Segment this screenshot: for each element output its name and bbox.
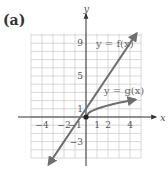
- y-tick-label: 5: [77, 71, 83, 81]
- curve-labels: y = f(x)y = g(x): [95, 38, 144, 97]
- y-axis-label: y: [83, 3, 90, 14]
- y-tick-label: 9: [77, 38, 83, 48]
- x-axis-label: x: [160, 112, 166, 123]
- g-start-point: [83, 114, 88, 119]
- x-tick-label: 4: [127, 120, 133, 130]
- y-tick-label: 1: [77, 104, 83, 114]
- series-f-line: [49, 33, 137, 164]
- chart: xy −4−2−1124951−3 y = f(x)y = g(x): [0, 0, 168, 172]
- series-g-curve: [86, 100, 136, 117]
- y-tick-label: −3: [70, 137, 84, 147]
- label-f: y = f(x): [95, 38, 134, 49]
- x-tick-label: −4: [35, 120, 49, 130]
- series: [49, 33, 137, 164]
- x-tick-label: 2: [105, 120, 111, 130]
- x-tick-label: 1: [94, 120, 100, 130]
- label-g: y = g(x): [103, 85, 144, 96]
